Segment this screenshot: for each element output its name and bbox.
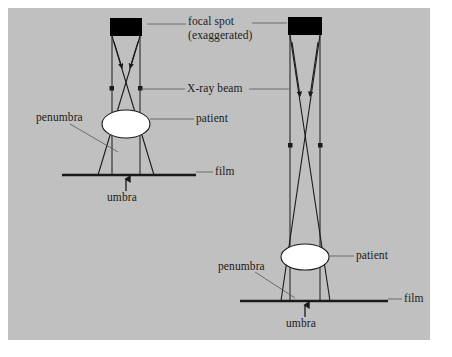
patient-ellipse-left — [102, 110, 150, 138]
label-focal-spot-note: (exaggerated) — [188, 29, 253, 41]
ray-arrow-a-r — [292, 42, 300, 96]
label-focal-spot: focal spot — [188, 15, 234, 27]
beam-marker-right — [138, 86, 143, 91]
diagram-right — [240, 17, 402, 317]
ray-arrow-b-r — [310, 42, 318, 96]
label-penumbra-left: penumbra — [36, 111, 83, 123]
label-umbra-right: umbra — [286, 317, 316, 329]
diagram-canvas — [0, 0, 452, 357]
focal-spot-rect-left — [110, 18, 142, 36]
label-xray-beam: X-ray beam — [187, 82, 243, 94]
diagram-left — [62, 18, 213, 191]
label-patient-right: patient — [356, 249, 388, 261]
label-patient-left: patient — [196, 112, 228, 124]
focal-spot-rect-right — [288, 17, 322, 35]
beam-marker-left — [110, 86, 115, 91]
label-umbra-left: umbra — [107, 191, 137, 203]
label-film-right: film — [404, 292, 424, 304]
ray-arrow-a — [114, 42, 122, 68]
ray-arrow-b — [130, 42, 138, 68]
xray-penumbra-figure: focal spot (exaggerated) X-ray beam pati… — [0, 0, 452, 357]
beam-marker-right-r — [318, 143, 323, 148]
label-penumbra-right: penumbra — [218, 260, 265, 272]
penumbra-leader-right — [255, 272, 295, 298]
label-film-left: film — [215, 165, 235, 177]
patient-ellipse-right — [281, 244, 329, 270]
beam-marker-left-r — [288, 143, 293, 148]
